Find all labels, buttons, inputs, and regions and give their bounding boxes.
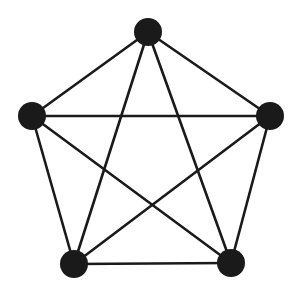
node-left (18, 102, 46, 130)
edge-top-bottom-left (74, 32, 148, 264)
edge-top-left (32, 32, 148, 116)
edge-bottom-left-bottom-right (74, 263, 231, 264)
node-bottom-left (60, 250, 88, 278)
edge-right-bottom-right (231, 116, 270, 263)
node-right (256, 102, 284, 130)
edges-group (32, 32, 270, 264)
edge-top-right (148, 32, 270, 116)
edge-left-bottom-left (32, 116, 74, 264)
edge-right-bottom-left (74, 116, 270, 264)
complete-graph-k5 (0, 0, 302, 290)
edge-top-bottom-right (148, 32, 231, 263)
edge-left-bottom-right (32, 116, 231, 263)
node-top (134, 18, 162, 46)
node-bottom-right (217, 249, 245, 277)
nodes-group (18, 18, 284, 278)
